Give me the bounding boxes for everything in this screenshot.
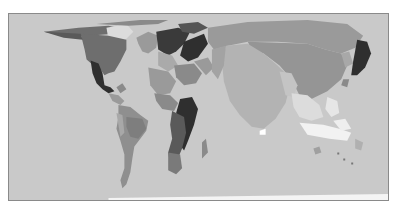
pacific-dots bbox=[337, 153, 353, 165]
madagascar bbox=[202, 139, 208, 159]
central-america bbox=[108, 93, 124, 105]
caribbean bbox=[116, 83, 126, 93]
arctic-islands bbox=[97, 20, 169, 26]
oceania-islands bbox=[355, 139, 363, 151]
philippines bbox=[325, 97, 339, 117]
west-africa bbox=[154, 93, 178, 111]
sri-lanka bbox=[260, 129, 266, 135]
south-africa bbox=[168, 153, 182, 175]
map-frame bbox=[8, 13, 389, 201]
antarctica bbox=[108, 194, 388, 200]
north-africa bbox=[148, 67, 176, 95]
middle-east bbox=[174, 63, 202, 85]
taiwan bbox=[341, 79, 349, 87]
europe-west bbox=[136, 32, 158, 54]
southeast-asia bbox=[292, 93, 324, 121]
australia-small bbox=[313, 147, 321, 155]
world-cartogram bbox=[9, 14, 388, 200]
north-america bbox=[81, 34, 127, 76]
